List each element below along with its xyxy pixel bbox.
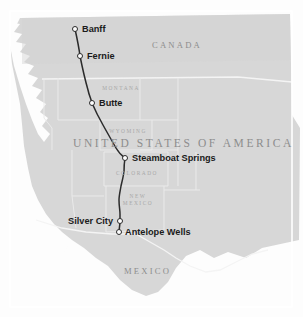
- land-shading: [22, 14, 291, 64]
- map-geometry: [0, 0, 303, 317]
- map-canvas: CANADA UNITED STATES OF AMERICA MEXICO M…: [0, 0, 303, 317]
